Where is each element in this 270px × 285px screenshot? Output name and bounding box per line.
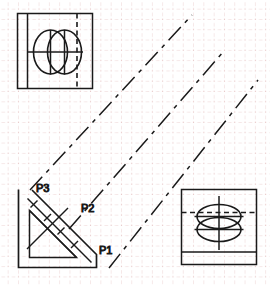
technical-drawing-vectors: P3 P2 P1 <box>0 0 270 285</box>
label-p1: P1 <box>99 244 112 256</box>
label-p2: P2 <box>81 202 94 214</box>
top-left-view <box>18 14 93 89</box>
projection-line-3 <box>109 80 258 268</box>
bottom-right-view <box>182 190 257 265</box>
bracket-construction-diagonal-a <box>30 211 77 258</box>
label-p3: P3 <box>36 182 49 194</box>
projection-line-1 <box>30 15 192 190</box>
drawing-canvas: P3 P2 P1 <box>0 0 270 285</box>
